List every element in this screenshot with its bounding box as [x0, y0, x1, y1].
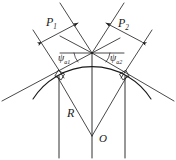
left-radius-line: [57, 76, 92, 136]
label-radius: R: [67, 107, 74, 119]
geometry-diagram: P1 P2 ψa1 ψa2 R O: [0, 0, 176, 160]
diagram-canvas: [0, 0, 176, 160]
label-psi-a1: ψa1: [58, 53, 70, 65]
left-tangent-line: [2, 53, 92, 101]
left-tangent-line-upper: [92, 38, 120, 53]
label-p1: P1: [46, 16, 57, 32]
right-tangent-line-upper: [60, 36, 92, 53]
right-tangent-line: [92, 53, 174, 101]
label-centre-o: O: [99, 133, 107, 144]
label-p2: P2: [118, 17, 129, 33]
psi-a1-angle-arc: [74, 53, 78, 62]
right-radius-line: [92, 76, 127, 136]
label-psi-a2: ψa2: [110, 53, 122, 65]
left-upper-ray: [60, 3, 92, 53]
